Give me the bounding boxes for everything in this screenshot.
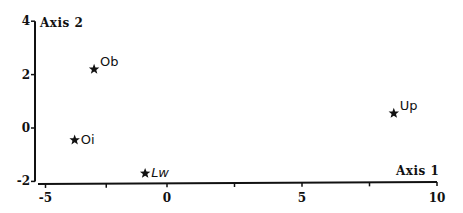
x-tick-label: 5 <box>298 191 306 205</box>
data-point: Ob <box>89 54 119 73</box>
y-tick-label: -2 <box>17 174 30 188</box>
x-axis: -50510 <box>38 182 445 205</box>
x-tick-label: -5 <box>39 191 52 205</box>
star-marker-icon <box>89 64 99 74</box>
star-marker-icon <box>140 168 150 178</box>
y-tick-label: 4 <box>22 14 30 28</box>
x-axis-title: Axis 1 <box>395 164 439 178</box>
x-axis-line <box>38 182 437 184</box>
data-point: Lw <box>140 165 169 180</box>
data-point: Up <box>389 98 418 117</box>
x-tick-label: 10 <box>429 191 446 205</box>
point-label: Lw <box>151 165 169 180</box>
point-label: Oi <box>81 132 95 147</box>
scatter-chart: 420-2 -50510 Axis 2 Axis 1 ObOiLwUp <box>0 0 463 213</box>
y-tick-label: 0 <box>22 121 30 135</box>
data-point: Oi <box>69 132 94 147</box>
star-marker-icon <box>389 108 399 118</box>
data-points: ObOiLwUp <box>69 54 417 180</box>
star-marker-icon <box>69 135 79 145</box>
y-tick-label: 2 <box>22 68 30 82</box>
y-axis: 420-2 <box>17 14 35 188</box>
point-label: Ob <box>100 54 118 69</box>
x-tick-label: 0 <box>163 191 171 205</box>
point-label: Up <box>400 98 418 113</box>
y-axis-title: Axis 2 <box>39 16 83 30</box>
